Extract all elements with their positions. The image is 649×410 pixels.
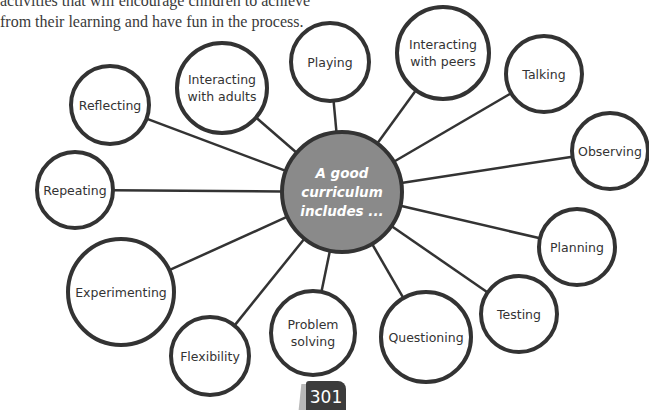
connector-line — [372, 244, 403, 298]
connector-line — [256, 117, 297, 152]
connector-line — [321, 251, 329, 292]
node-label: Interacting with peers — [409, 36, 477, 70]
connector-line — [400, 206, 540, 239]
center-label: A good curriculum includes ... — [300, 164, 383, 221]
node-label: Interacting with adults — [188, 71, 257, 105]
node-label: Questioning — [388, 329, 463, 346]
node-label: Observing — [578, 143, 642, 160]
connector-line — [391, 226, 487, 292]
connector-line — [334, 101, 337, 132]
node-label: Testing — [497, 306, 541, 323]
node-label: Playing — [307, 54, 352, 71]
connector-line — [169, 217, 287, 270]
connector-line — [401, 157, 572, 183]
connector-line — [394, 93, 511, 162]
node-label: Repeating — [43, 182, 106, 199]
node-label: Talking — [522, 66, 565, 83]
connector-line — [377, 90, 416, 143]
node-label: Reflecting — [79, 97, 141, 114]
node-label: Experimenting — [75, 284, 167, 301]
node-label: Planning — [550, 239, 604, 256]
node-label: Problem solving — [287, 316, 338, 350]
page-number: 301 — [306, 386, 346, 408]
connector-line — [113, 190, 282, 191]
node-label: Flexibility — [180, 348, 240, 365]
